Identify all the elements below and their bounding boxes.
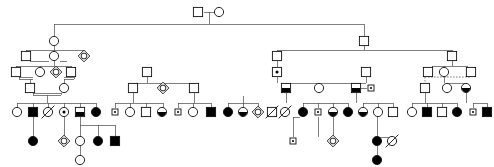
pedigree-node-square-filled <box>28 107 37 116</box>
pedigree-node-square-open <box>128 83 137 92</box>
pedigree-node-small-square-carrier-dot <box>470 109 476 115</box>
pedigree-svg-canvas <box>0 0 494 167</box>
pedigree-node-small-square-carrier-dot <box>315 109 321 115</box>
pedigree-symbol-layer <box>11 7 491 164</box>
pedigree-node-square-open <box>437 107 446 116</box>
pedigree-node-diamond-dot <box>50 66 62 78</box>
pedigree-node-circle-half <box>328 107 337 116</box>
pedigree-node-circle-open <box>35 67 44 76</box>
pedigree-node-square-open <box>25 83 34 92</box>
pedigree-node-diamond-dot <box>58 135 70 147</box>
pedigree-node-square-open <box>11 67 20 76</box>
pedigree-node-circle-filled <box>343 107 352 116</box>
pedigree-node-square-open <box>189 83 198 92</box>
pedigree-node-small-square-carrier-dot <box>112 109 118 115</box>
pedigree-node-square-open <box>359 36 368 45</box>
pedigree-node-circle-dot <box>59 107 68 116</box>
pedigree-node-circle-open <box>314 83 323 92</box>
pedigree-node-circle-open <box>12 107 21 116</box>
pedigree-node-circle-open <box>75 136 84 145</box>
pedigree-node-circle-deceased <box>279 106 292 119</box>
pedigree-node-small-square-carrier-dot <box>175 109 181 115</box>
pedigree-node-circle-half <box>157 107 166 116</box>
pedigree-node-square-half <box>281 83 290 92</box>
pedigree-node-circle-filled <box>372 155 381 164</box>
pedigree-node-square-filled <box>206 107 215 116</box>
pedigree-node-circle-half <box>238 107 247 116</box>
pedigree-node-circle-open <box>75 155 84 164</box>
pedigree-node-diamond-dot <box>78 50 90 62</box>
pedigree-node-circle-half <box>461 83 470 92</box>
pedigree-node-square-open <box>447 51 456 60</box>
pedigree-node-square-open <box>66 67 75 76</box>
pedigree-node-circle-deceased <box>386 135 399 148</box>
pedigree-node-diamond-dot <box>327 135 339 147</box>
pedigree-node-square-half <box>351 83 360 92</box>
pedigree-node-circle-filled <box>91 107 100 116</box>
pedigree-node-circle-filled <box>452 107 461 116</box>
pedigree-node-square-open <box>142 67 151 76</box>
pedigree-node-circle-filled <box>28 136 37 145</box>
connector-lines-layer <box>16 12 487 156</box>
pedigree-node-square-open <box>361 67 370 76</box>
pedigree-node-diamond-dot <box>157 82 169 94</box>
pedigree-node-circle-open <box>442 83 451 92</box>
pedigree-node-small-square-carrier-dot <box>368 85 374 91</box>
pedigree-node-square-open <box>466 67 475 76</box>
pedigree-node-circle-open <box>59 83 68 92</box>
pedigree-node-circle-open <box>49 36 58 45</box>
pedigree-node-square-open <box>423 67 432 76</box>
pedigree-node-square-filled <box>482 107 491 116</box>
pedigree-node-circle-deceased <box>42 106 55 119</box>
pedigree-node-diamond-dot <box>252 106 264 118</box>
pedigree-node-circle-open <box>49 51 58 60</box>
pedigree-node-square-half <box>75 107 84 116</box>
pedigree-node-circle-filled <box>298 107 307 116</box>
pedigree-node-square-filled <box>110 136 119 145</box>
pedigree-node-small-square-carrier-dot <box>290 138 296 144</box>
pedigree-node-square-open <box>193 7 202 16</box>
pedigree-chart-figure <box>0 0 494 167</box>
pedigree-node-circle-open <box>439 67 448 76</box>
pedigree-node-square-open <box>272 51 281 60</box>
pedigree-node-square-open <box>388 107 397 116</box>
pedigree-node-square-filled <box>422 107 431 116</box>
pedigree-node-circle-filled <box>93 136 102 145</box>
pedigree-node-square-carrier-dot <box>272 67 281 76</box>
pedigree-node-circle-filled <box>223 107 232 116</box>
pedigree-node-circle-open <box>214 7 223 16</box>
pedigree-node-circle-half <box>358 107 367 116</box>
pedigree-node-circle-open <box>125 107 134 116</box>
pedigree-node-square-open <box>420 83 429 92</box>
pedigree-node-circle-filled <box>372 136 381 145</box>
pedigree-node-circle-open <box>407 107 416 116</box>
pedigree-node-circle-open <box>373 107 382 116</box>
pedigree-node-circle-open <box>188 107 197 116</box>
pedigree-node-square-deceased <box>266 106 279 119</box>
pedigree-node-square-open <box>141 107 150 116</box>
pedigree-node-square-open <box>21 51 30 60</box>
